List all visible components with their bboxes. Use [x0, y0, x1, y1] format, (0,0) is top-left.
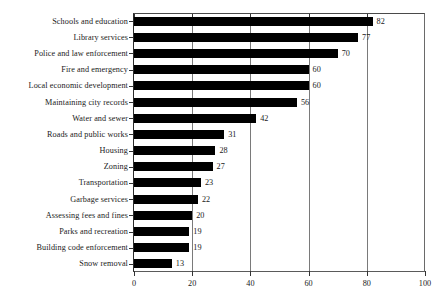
bar-value-label: 27: [217, 162, 225, 171]
bar-row: Schools and education82: [0, 13, 448, 29]
x-tick-label: 60: [305, 279, 313, 288]
x-axis-labels: 020406080100: [0, 279, 448, 299]
bar-with-value: 27: [134, 162, 225, 171]
bar: [134, 49, 338, 58]
bar-row: Housing28: [0, 143, 448, 159]
bar-value-label: 60: [313, 81, 321, 90]
bar-value-label: 77: [362, 33, 370, 42]
bar-with-value: 31: [134, 130, 236, 139]
x-tick-label: 100: [419, 279, 431, 288]
bar-row: Roads and public works31: [0, 126, 448, 142]
x-tick-label: 40: [246, 279, 254, 288]
category-label: Fire and emergency: [0, 65, 128, 74]
bar-with-value: 70: [134, 49, 350, 58]
category-label: Schools and education: [0, 17, 128, 26]
category-label: Maintaining city records: [0, 98, 128, 107]
y-axis-tick: [129, 151, 133, 152]
bar-value-label: 42: [260, 114, 268, 123]
y-axis-tick: [129, 183, 133, 184]
bar: [134, 65, 309, 74]
bar-value-label: 70: [342, 49, 350, 58]
category-label: Building code enforcement: [0, 243, 128, 252]
bar-row: Library services77: [0, 29, 448, 45]
y-axis-tick: [129, 86, 133, 87]
bar: [134, 243, 189, 252]
bar-value-label: 13: [176, 259, 184, 268]
category-label: Police and law enforcement: [0, 49, 128, 58]
bar-with-value: 60: [134, 81, 321, 90]
bar: [134, 195, 198, 204]
bar-value-label: 22: [202, 195, 210, 204]
y-axis-tick: [129, 134, 133, 135]
category-label: Snow removal: [0, 259, 128, 268]
category-label: Water and sewer: [0, 114, 128, 123]
y-axis-tick: [129, 21, 133, 22]
category-label: Assessing fees and fines: [0, 211, 128, 220]
category-label: Transportation: [0, 178, 128, 187]
bar: [134, 130, 224, 139]
bar-with-value: 28: [134, 146, 228, 155]
bar-chart: Schools and education82Library services7…: [0, 0, 448, 305]
bar-row: Zoning27: [0, 159, 448, 175]
y-axis-tick: [129, 70, 133, 71]
bar-value-label: 20: [196, 211, 204, 220]
bar-value-label: 19: [193, 243, 201, 252]
bar-row: Garbage services22: [0, 191, 448, 207]
category-label: Roads and public works: [0, 130, 128, 139]
category-label: Garbage services: [0, 195, 128, 204]
bar: [134, 259, 172, 268]
bar-value-label: 31: [228, 130, 236, 139]
bar: [134, 211, 192, 220]
bar-row: Fire and emergency60: [0, 62, 448, 78]
y-axis-tick: [129, 199, 133, 200]
bar-with-value: 13: [134, 259, 184, 268]
y-axis-tick: [129, 37, 133, 38]
y-axis-tick: [129, 248, 133, 249]
bar-value-label: 19: [193, 227, 201, 236]
category-label: Library services: [0, 33, 128, 42]
x-tick-label: 80: [363, 279, 371, 288]
bar-row: Local economic development60: [0, 78, 448, 94]
y-axis-tick: [129, 118, 133, 119]
bar-with-value: 56: [134, 98, 309, 107]
bar-row: Building code enforcement19: [0, 240, 448, 256]
bar-row: Water and sewer42: [0, 110, 448, 126]
y-axis-tick: [129, 232, 133, 233]
bar-value-label: 60: [313, 65, 321, 74]
bar: [134, 33, 358, 42]
bar-value-label: 56: [301, 98, 309, 107]
bar-row: Assessing fees and fines20: [0, 207, 448, 223]
category-label: Housing: [0, 146, 128, 155]
bar-with-value: 42: [134, 114, 268, 123]
category-label: Parks and recreation: [0, 227, 128, 236]
bar: [134, 17, 373, 26]
bar: [134, 81, 309, 90]
bar-with-value: 60: [134, 65, 321, 74]
bar-with-value: 22: [134, 195, 210, 204]
bar: [134, 98, 297, 107]
bar-row: Parks and recreation19: [0, 223, 448, 239]
y-axis-tick: [129, 215, 133, 216]
x-tick-label: 20: [188, 279, 196, 288]
bar-value-label: 23: [205, 178, 213, 187]
bar-value-label: 82: [377, 17, 385, 26]
bar-with-value: 20: [134, 211, 204, 220]
bar-rows: Schools and education82Library services7…: [0, 13, 448, 272]
bar: [134, 146, 215, 155]
bar: [134, 178, 201, 187]
category-label: Zoning: [0, 162, 128, 171]
bar-with-value: 23: [134, 178, 213, 187]
bar-row: Transportation23: [0, 175, 448, 191]
bar-value-label: 28: [219, 146, 227, 155]
bar-with-value: 19: [134, 243, 201, 252]
bar: [134, 162, 213, 171]
y-axis-tick: [129, 167, 133, 168]
y-axis-tick: [129, 102, 133, 103]
y-axis-tick: [129, 264, 133, 265]
bar-with-value: 19: [134, 227, 201, 236]
bar-row: Police and law enforcement70: [0, 45, 448, 61]
y-axis-tick: [129, 53, 133, 54]
bar-with-value: 82: [134, 17, 385, 26]
category-label: Local economic development: [0, 81, 128, 90]
bar: [134, 114, 256, 123]
